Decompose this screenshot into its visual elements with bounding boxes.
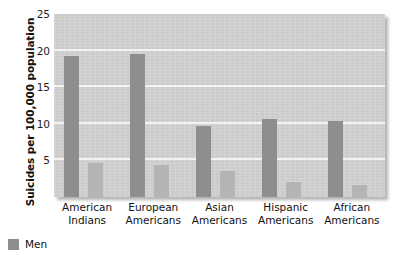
chart-legend: Men bbox=[8, 238, 47, 250]
x-category-label-2: AsianAmericans bbox=[186, 201, 252, 227]
bar-men-1 bbox=[130, 54, 145, 197]
x-axis-category-labels: AmericanIndiansEuropeanAmericansAsianAme… bbox=[54, 201, 385, 237]
bar-series-container bbox=[54, 14, 385, 197]
y-tick-label-25: 25 bbox=[28, 9, 50, 20]
plot-area bbox=[54, 14, 385, 197]
bar-women-3 bbox=[286, 182, 301, 197]
bar-women-4 bbox=[352, 185, 367, 197]
bar-men-3 bbox=[262, 119, 277, 197]
y-tick-label-15: 15 bbox=[28, 82, 50, 93]
y-axis-tick-labels: 510152025 bbox=[24, 0, 50, 215]
bar-chart-figure: Suicides per 100,000 population 51015202… bbox=[0, 0, 400, 255]
bar-women-1 bbox=[154, 165, 169, 197]
bar-men-2 bbox=[196, 126, 211, 197]
x-category-label-4: AfricanAmericans bbox=[319, 201, 385, 227]
bar-women-0 bbox=[88, 163, 103, 197]
bar-women-2 bbox=[220, 171, 235, 197]
y-tick-label-5: 5 bbox=[28, 155, 50, 166]
y-tick-label-20: 20 bbox=[28, 46, 50, 57]
x-category-label-0: AmericanIndians bbox=[54, 201, 120, 227]
x-category-label-1: EuropeanAmericans bbox=[120, 201, 186, 227]
x-category-label-3: HispanicAmericans bbox=[253, 201, 319, 227]
legend-label-men: Men bbox=[25, 238, 47, 250]
legend-swatch-men bbox=[8, 239, 19, 250]
bar-men-4 bbox=[328, 121, 343, 197]
y-tick-label-10: 10 bbox=[28, 119, 50, 130]
bar-men-0 bbox=[64, 56, 79, 197]
